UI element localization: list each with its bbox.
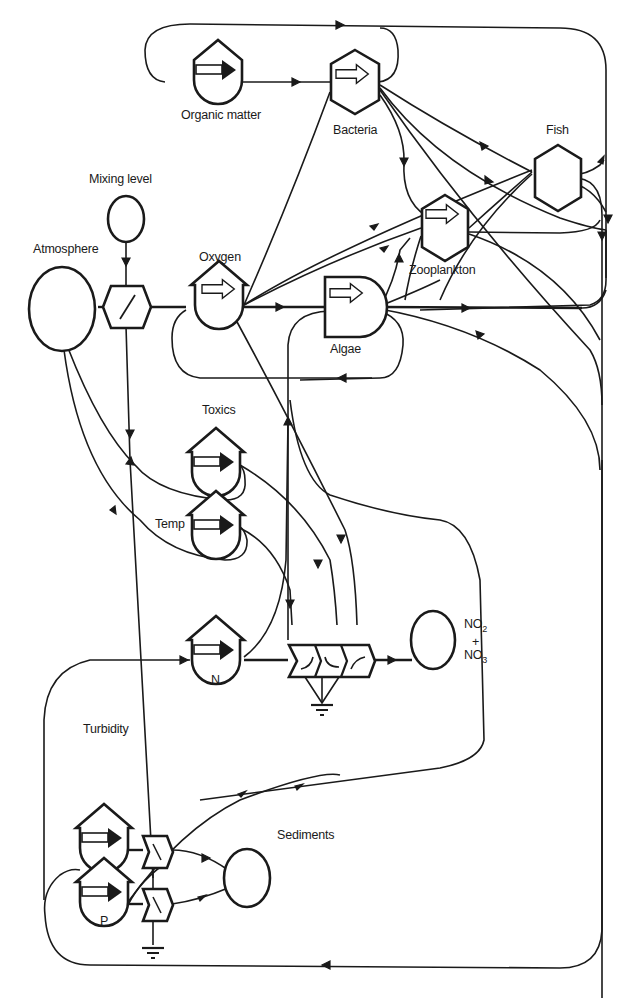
ecosystem-flow-diagram: Organic matter Bacteria Fish Mixing leve… <box>0 0 639 998</box>
reaeration-interaction-gate <box>103 286 151 328</box>
p-interaction-gate <box>143 889 173 921</box>
flow-lines <box>44 21 612 998</box>
label-sediments: Sediments <box>277 828 334 842</box>
flow-algae-loop <box>288 311 330 640</box>
label-temp: Temp <box>155 517 185 531</box>
nitrification-interaction-gates <box>289 645 375 703</box>
label-organic-matter: Organic matter <box>181 108 261 122</box>
label-fish: Fish <box>546 123 569 137</box>
sediments-sink <box>224 849 270 907</box>
flow-oxygen-to-bacteria <box>244 92 330 305</box>
diagram-svg <box>0 0 639 998</box>
label-no2-no3: NO2 + NO3 <box>464 618 487 666</box>
label-atmosphere: Atmosphere <box>33 242 98 256</box>
toxics-tank <box>188 428 244 496</box>
label-p: P <box>100 914 108 928</box>
bacteria-consumer <box>331 50 379 114</box>
organic-matter-tank <box>194 40 242 104</box>
label-turbidity: Turbidity <box>83 722 129 736</box>
label-mixing-level: Mixing level <box>89 172 152 186</box>
zooplankton-consumer <box>422 195 468 261</box>
turbidity-interaction-gate <box>143 836 173 868</box>
atmosphere-source <box>29 267 95 351</box>
mixing-level-source <box>108 196 144 242</box>
heat-sink-ground-icon <box>311 705 333 715</box>
temp-tank <box>188 491 244 559</box>
label-oxygen: Oxygen <box>199 250 241 264</box>
no2-no3-sink <box>411 611 455 669</box>
oxygen-tank <box>191 261 247 329</box>
label-n: N <box>211 673 220 687</box>
label-bacteria: Bacteria <box>333 123 377 137</box>
label-zooplankton: Zooplankton <box>409 263 476 277</box>
label-toxics: Toxics <box>202 403 236 417</box>
heat-sink-ground-icon <box>142 948 164 958</box>
algae-producer <box>325 277 387 337</box>
label-algae: Algae <box>330 342 361 356</box>
fish-consumer <box>535 145 581 211</box>
